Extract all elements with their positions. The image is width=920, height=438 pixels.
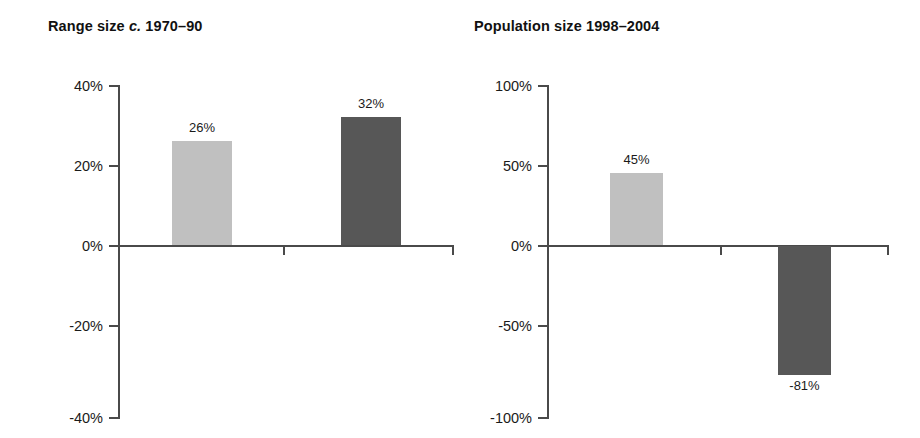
bar-label-population-size-2: -81% [768,378,841,393]
y-tick-mark-0 [109,245,118,247]
bar-label-population-size-1: 45% [600,152,673,167]
y-tick-mark-50 [538,165,547,167]
y-tick-label-0: 0% [45,238,103,254]
chart-panel-range-size: Range size c. 1970–90 40% 20% 0% -20% -4… [0,0,460,438]
x-axis-tick-end-right [887,246,889,255]
y-axis-line-left [118,85,120,419]
y-tick-mark-neg40 [109,417,118,419]
bar-population-size-2 [778,246,831,375]
bar-population-size-1 [610,173,663,245]
y-tick-mark-40 [109,85,118,87]
bar-label-range-size-1: 26% [162,120,242,135]
y-tick-mark-neg20 [109,325,118,327]
x-axis-line-right [547,245,889,247]
bar-range-size-1 [172,141,232,245]
y-tick-label-50: 50% [460,158,532,174]
y-tick-mark-neg50 [538,325,547,327]
bar-label-range-size-2: 32% [331,96,411,111]
y-tick-label-100: 100% [460,78,532,94]
plot-area-population-size: 100% 50% 0% -50% -100% 45% -81% [460,0,920,438]
plot-area-range-size: 40% 20% 0% -20% -40% 26% 32% [0,0,460,438]
bar-range-size-2 [341,117,401,245]
y-tick-mark-100 [538,85,547,87]
y-tick-label-neg100: -100% [460,410,532,426]
y-axis-line-right [547,85,549,419]
y-tick-label-neg20: -20% [45,318,103,334]
x-axis-tick-middle-left [283,246,285,255]
x-axis-tick-end-left [452,246,454,255]
y-tick-label-40: 40% [45,78,103,94]
y-tick-mark-20 [109,165,118,167]
y-tick-mark-neg100 [538,417,547,419]
y-tick-label-neg50: -50% [460,318,532,334]
y-tick-label-neg40: -40% [45,410,103,426]
y-tick-label-0-right: 0% [460,238,532,254]
x-axis-tick-middle-right [720,246,722,255]
y-tick-mark-0-right [538,245,547,247]
chart-panel-population-size: Population size 1998–2004 100% 50% 0% -5… [460,0,920,438]
y-tick-label-20: 20% [45,158,103,174]
x-axis-line-left [118,245,454,247]
